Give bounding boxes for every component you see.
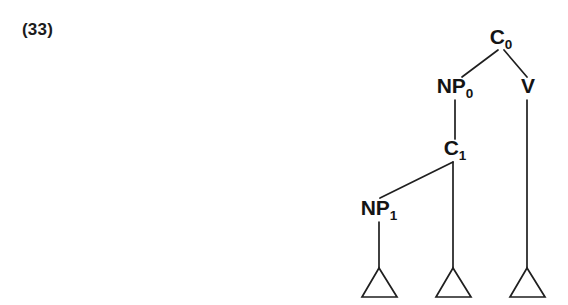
node-subscript-c1: 1 xyxy=(459,148,467,163)
node-base-v: V xyxy=(521,74,535,97)
figure-root: (33) C0 NP0 V C1 NP1 xyxy=(0,0,568,305)
node-label-c1: C1 xyxy=(444,136,467,163)
tree-triangles xyxy=(362,268,545,297)
branch-c0-np0 xyxy=(462,50,498,77)
node-subscript-c0: 0 xyxy=(505,37,513,52)
syntax-tree-canvas: C0 NP0 V C1 NP1 xyxy=(0,0,568,305)
node-label-v: V xyxy=(521,74,535,97)
ellipsis-triangle-3 xyxy=(510,268,545,297)
branch-c0-v xyxy=(504,50,527,77)
node-subscript-np1: 1 xyxy=(390,208,398,223)
node-base-c0: C xyxy=(490,25,505,48)
node-base-np0: NP xyxy=(437,74,466,97)
node-label-c0: C0 xyxy=(490,25,513,52)
ellipsis-triangle-2 xyxy=(436,268,471,297)
node-label-np0: NP0 xyxy=(437,74,474,101)
ellipsis-triangle-1 xyxy=(362,268,397,297)
branch-c1-np1 xyxy=(380,162,453,198)
node-base-np1: NP xyxy=(361,196,390,219)
node-label-np1: NP1 xyxy=(361,196,398,223)
node-subscript-np0: 0 xyxy=(466,86,474,101)
node-base-c1: C xyxy=(444,136,459,159)
